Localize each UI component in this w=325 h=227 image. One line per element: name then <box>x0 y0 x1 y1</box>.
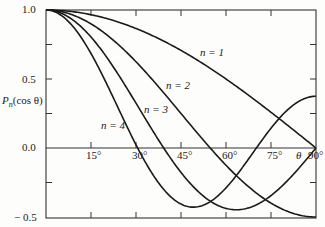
label-n1: n = 1 <box>200 47 224 58</box>
y-axis-label: Pn(cos θ) <box>2 95 43 110</box>
label-n2: n = 2 <box>166 80 190 91</box>
x-tick-15: 15° <box>86 150 101 161</box>
x-tick-45: 45° <box>177 150 192 161</box>
x-tick-60: 60° <box>222 150 237 161</box>
y-tick-0: 0.0 <box>22 142 36 153</box>
y-axis-label-p: P <box>2 94 9 106</box>
y-tick-0.5: 0.5 <box>22 74 36 85</box>
x-axis-label-theta: θ <box>296 150 301 161</box>
label-n3: n = 3 <box>144 104 168 115</box>
curves <box>46 10 316 217</box>
curve-n4 <box>46 10 316 207</box>
y-tick-neg0.5: − 0.5 <box>14 212 37 223</box>
x-tick-90: 90° <box>308 150 323 161</box>
label-n4: n = 4 <box>101 120 125 131</box>
curve-n2 <box>46 10 316 217</box>
x-tick-30: 30° <box>132 150 147 161</box>
curve-n3 <box>46 10 316 210</box>
y-axis-label-rest: (cos θ) <box>13 94 43 106</box>
y-tick-1: 1.0 <box>22 4 36 15</box>
x-tick-75: 75° <box>267 150 282 161</box>
